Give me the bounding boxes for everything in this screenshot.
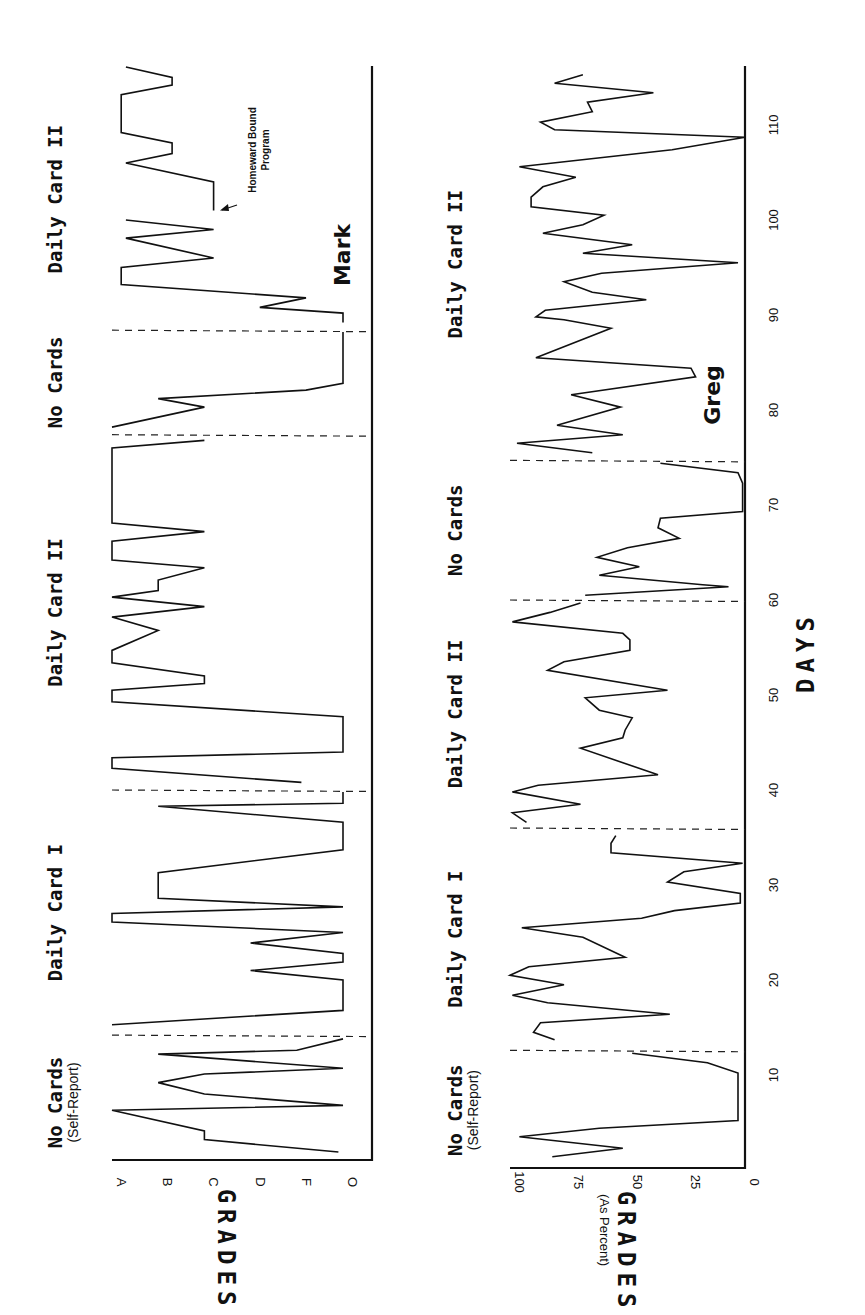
greg-y-tick-25: 25: [688, 1175, 703, 1189]
greg-phase-divider-1: [510, 1050, 745, 1052]
homeward-bound-annotation: Homeward Bound Program: [220, 107, 271, 211]
mark-series-segment-6: [121, 67, 213, 211]
greg-y-tick-50: 50: [630, 1175, 645, 1189]
mark-y-tick-C: C: [206, 1177, 221, 1186]
greg-y-axis-subtitle: (As Percent): [597, 1194, 612, 1266]
annotation-arrowhead-icon: [220, 204, 229, 211]
x-tick-50: 50: [766, 688, 781, 702]
mark-y-tick-O: O: [345, 1177, 360, 1187]
greg-series-segment-2: [510, 836, 743, 1040]
dual-line-chart: OFDCBA No Cards(Self-Report)Daily Card I…: [0, 0, 865, 1315]
x-tick-40: 40: [766, 783, 781, 797]
mark-y-tick-F: F: [299, 1178, 314, 1186]
greg-series-segment-3: [512, 603, 667, 822]
mark-phase-label-5: Daily Card II: [44, 125, 66, 274]
mark-y-tick-A: A: [114, 1178, 129, 1187]
mark-phase-lines: [112, 330, 372, 1036]
figure-canvas: OFDCBA No Cards(Self-Report)Daily Card I…: [0, 0, 865, 1315]
mark-phase-sublabel-1: (Self-Report): [65, 1062, 81, 1142]
greg-y-tick-labels: 0255075100: [512, 1171, 762, 1193]
mark-series-segment-2: [112, 792, 343, 1025]
x-tick-20: 20: [766, 973, 781, 987]
greg-panel: 0255075100 102030405060708090100110 No C…: [444, 66, 820, 1313]
mark-series: [112, 67, 343, 1152]
x-tick-labels: 102030405060708090100110: [766, 115, 781, 1083]
mark-phase-divider-4: [112, 330, 372, 332]
greg-y-axis-title: GRADES: [612, 1191, 640, 1314]
greg-series: [510, 75, 745, 1157]
mark-series-segment-5: [121, 220, 343, 323]
mark-y-tick-labels: OFDCBA: [114, 1177, 360, 1187]
x-tick-10: 10: [766, 1068, 781, 1082]
mark-y-tick-D: D: [253, 1177, 268, 1186]
greg-phase-divider-3: [510, 600, 745, 602]
mark-series-segment-1: [112, 1039, 343, 1152]
mark-y-tick-B: B: [160, 1178, 175, 1187]
mark-phase-label-4: No Cards: [44, 337, 66, 429]
mark-phase-label-1: No Cards: [44, 1057, 66, 1149]
mark-phase-divider-2: [112, 790, 372, 792]
greg-y-tick-75: 75: [571, 1175, 586, 1189]
x-tick-70: 70: [766, 498, 781, 512]
x-tick-80: 80: [766, 403, 781, 417]
mark-phase-divider-1: [112, 1035, 372, 1037]
mark-series-segment-3: [112, 440, 343, 782]
greg-phase-labels: No Cards(Self-Report)Daily Card IDaily C…: [444, 190, 481, 1156]
mark-phase-label-3: Daily Card II: [44, 538, 66, 687]
annotation-line-1: Homeward Bound: [247, 107, 258, 193]
greg-y-tick-0: 0: [747, 1178, 762, 1185]
mark-subject-label: Mark: [330, 223, 355, 287]
greg-series-segment-1: [519, 1053, 738, 1157]
mark-y-axis-title: GRADES: [212, 1189, 240, 1312]
greg-phase-label-3: Daily Card II: [444, 640, 466, 789]
mark-phase-labels: No Cards(Self-Report)Daily Card IDaily C…: [44, 125, 81, 1149]
greg-phase-divider-4: [510, 460, 745, 462]
greg-phase-lines: [510, 460, 745, 1051]
x-tick-100: 100: [766, 209, 781, 231]
greg-y-tick-100: 100: [512, 1171, 527, 1193]
x-axis-title: DAYS: [792, 611, 820, 693]
mark-phase-label-2: Daily Card I: [44, 844, 66, 981]
x-tick-60: 60: [766, 593, 781, 607]
x-tick-30: 30: [766, 878, 781, 892]
greg-phase-label-4: No Cards: [444, 484, 466, 576]
greg-phase-sublabel-1: (Self-Report): [465, 1070, 481, 1150]
greg-phase-label-2: Daily Card I: [444, 870, 466, 1007]
greg-phase-divider-2: [510, 828, 745, 830]
mark-series-segment-4: [112, 332, 343, 427]
x-tick-90: 90: [766, 308, 781, 322]
x-tick-110: 110: [766, 115, 781, 136]
greg-phase-label-1: No Cards: [444, 1064, 466, 1156]
greg-series-segment-4: [585, 463, 742, 595]
mark-phase-divider-3: [112, 435, 372, 437]
mark-panel: OFDCBA No Cards(Self-Report)Daily Card I…: [44, 66, 372, 1311]
annotation-line-2: Program: [260, 129, 271, 170]
greg-subject-label: Greg: [700, 365, 725, 425]
greg-phase-label-5: Daily Card II: [444, 190, 466, 339]
